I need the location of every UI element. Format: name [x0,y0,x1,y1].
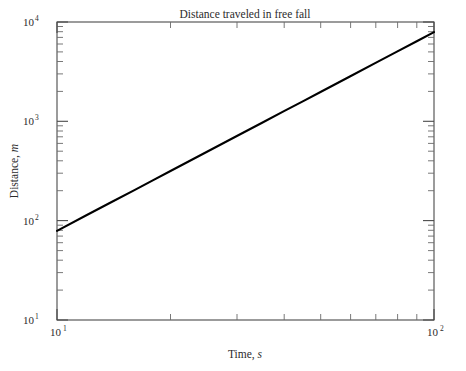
y-tick-base-1: 10 [23,314,35,326]
x-tick-exp-1: 1 [63,324,67,333]
y-tick-exp-1: 1 [35,312,39,321]
svg-text:Time, s: Time, s [228,348,263,361]
x-axis-title-unit: s [258,348,263,360]
y-tick-base-4: 10 [23,16,35,28]
chart-figure: Distance traveled in free fall [0,0,466,371]
y-tick-exp-4: 4 [35,14,39,23]
x-tick-base-1: 10 [50,326,62,338]
y-axis-title: Distance, m [8,144,21,198]
y-tick-base-2: 10 [23,215,35,227]
chart-title: Distance traveled in free fall [180,8,311,20]
x-axis-title: Time, s [228,348,263,361]
y-tick-exp-3: 3 [35,113,39,122]
chart-background [0,0,466,371]
y-tick-base-3: 10 [23,115,35,127]
chart-canvas: Distance traveled in free fall [0,0,466,371]
x-axis-title-prefix: Time, [228,348,258,361]
x-tick-base-2: 10 [427,326,439,338]
y-tick-exp-2: 2 [35,213,39,222]
svg-text:Distance, m: Distance, m [8,144,21,198]
y-axis-title-unit: m [8,144,20,152]
x-tick-exp-2: 2 [440,324,444,333]
y-axis-title-prefix: Distance, [8,152,21,198]
